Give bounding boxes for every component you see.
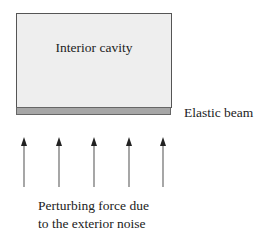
force-label-line2: to the exterior noise bbox=[38, 215, 149, 233]
arrow-up-icon bbox=[24, 145, 163, 187]
force-label-line1: Perturbing force due bbox=[38, 197, 149, 215]
force-label: Perturbing force due to the exterior noi… bbox=[38, 197, 149, 233]
